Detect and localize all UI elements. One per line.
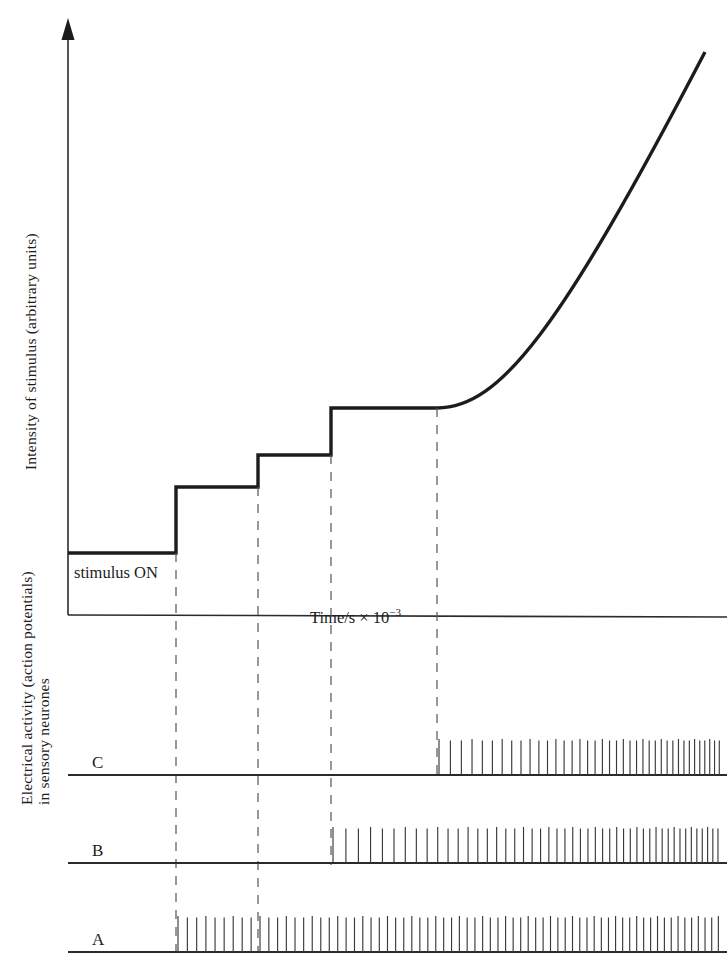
top-panel-x-axis-label: Time/s × 10−3 xyxy=(310,606,402,627)
trace-a-group: A xyxy=(68,916,727,952)
trace-b-group: B xyxy=(68,827,727,863)
top-panel: Intensity of stimulus (arbitrary units) … xyxy=(22,18,727,627)
bottom-panel-y-axis-label-line1: Electrical activity (action potentials) xyxy=(18,571,36,805)
figure-root: Intensity of stimulus (arbitrary units) … xyxy=(0,0,727,977)
y-axis-arrowhead-icon xyxy=(62,18,75,40)
bottom-panel-y-axis-label-line2: in sensory neurones xyxy=(35,678,52,805)
bottom-panel-y-axis-label: Electrical activity (action potentials) … xyxy=(18,567,52,805)
trace-c-label: C xyxy=(92,753,103,772)
trace-a-spike-train xyxy=(178,916,718,952)
trace-b-label: B xyxy=(92,841,103,860)
x-axis-label-exponent: −3 xyxy=(389,606,401,618)
x-axis-label-main: Time/s × 10 xyxy=(310,608,389,627)
trace-c-spike-train xyxy=(439,739,719,775)
stimulus-intensity-curve xyxy=(68,52,705,553)
figure-canvas: Intensity of stimulus (arbitrary units) … xyxy=(0,0,727,977)
trace-a-label: A xyxy=(92,930,105,949)
trace-b-spike-train xyxy=(333,827,718,863)
guide-lines-group xyxy=(176,408,437,952)
top-panel-y-axis-label: Intensity of stimulus (arbitrary units) xyxy=(22,233,40,470)
stimulus-on-label: stimulus ON xyxy=(74,563,158,582)
trace-c-group: C xyxy=(68,739,727,775)
